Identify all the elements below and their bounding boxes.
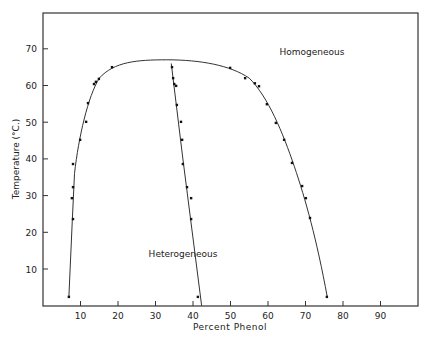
y-tick-label: 50 [26,118,38,128]
x-axis-label: Percent Phenol [193,322,267,332]
data-point [326,296,328,298]
data-point [186,186,188,188]
data-point [275,122,277,124]
data-point [98,78,100,80]
heterogeneous-label: Heterogeneous [149,249,218,259]
plot-frame [43,13,418,306]
axis-ticks: 10203040506070809010203040506070 [26,44,387,321]
y-tick-label: 40 [26,154,38,164]
data-point [79,139,81,141]
phenol-water-phase-diagram: 10203040506070809010203040506070 Homogen… [0,0,428,339]
y-tick-label: 10 [26,265,38,275]
data-point [190,218,192,220]
data-point [111,66,113,68]
data-point [181,139,183,141]
data-point [244,77,246,79]
data-point [309,217,311,219]
data-point [301,185,303,187]
y-tick-label: 60 [26,81,38,91]
data-point [72,163,74,165]
x-tick-label: 70 [300,311,312,321]
annotations: HomogeneousHeterogeneous [149,47,345,259]
y-tick-label: 30 [26,191,38,201]
x-tick-label: 90 [375,311,387,321]
data-point [254,82,256,84]
data-point [180,121,182,123]
plot-border [43,13,418,306]
data-point [229,67,231,69]
middle-line [171,63,201,305]
data-point [68,296,70,298]
x-tick-label: 40 [187,311,199,321]
data-point [72,186,74,188]
data-point [258,85,260,87]
data-point [173,83,175,85]
data-point [85,121,87,123]
data-point [291,162,293,164]
x-tick-label: 80 [337,311,349,321]
solubility-curve [69,60,327,297]
data-point [305,197,307,199]
data-point [172,77,174,79]
data-point [182,163,184,165]
x-tick-label: 60 [262,311,274,321]
data-point [197,296,199,298]
data-point [71,197,73,199]
homogeneous-label: Homogeneous [280,47,345,57]
x-tick-label: 50 [225,311,237,321]
y-axis-label: Temperature (°C.) [11,119,21,201]
chart-svg: 10203040506070809010203040506070 Homogen… [0,0,428,339]
curves [69,60,327,306]
data-point [93,83,95,85]
data-point [171,66,173,68]
data-points [68,66,328,298]
data-point [72,218,74,220]
x-tick-label: 30 [150,311,162,321]
data-point [266,103,268,105]
x-tick-label: 10 [75,311,87,321]
data-point [283,139,285,141]
y-tick-label: 70 [26,44,38,54]
data-point [176,104,178,106]
data-point [87,102,89,104]
data-point [95,81,97,83]
y-tick-label: 20 [26,228,38,238]
data-point [190,197,192,199]
x-tick-label: 20 [112,311,124,321]
